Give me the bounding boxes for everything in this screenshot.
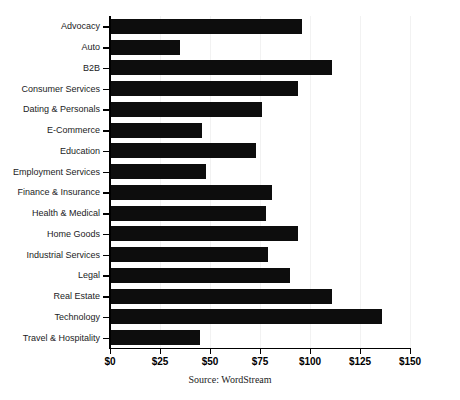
y-axis-label: Auto bbox=[0, 42, 100, 52]
y-axis-label: Technology bbox=[0, 312, 100, 322]
x-axis-tick bbox=[260, 348, 261, 354]
gridline bbox=[410, 16, 411, 348]
y-axis-tick bbox=[103, 26, 110, 27]
x-axis-tick bbox=[110, 348, 111, 354]
x-axis-label: $100 bbox=[299, 356, 321, 367]
x-axis-tick bbox=[410, 348, 411, 354]
y-axis-label: Employment Services bbox=[0, 167, 100, 177]
y-axis-tick bbox=[103, 47, 110, 48]
y-axis-tick bbox=[103, 172, 110, 173]
plot-area bbox=[110, 16, 410, 348]
y-axis-tick bbox=[103, 255, 110, 256]
y-axis-label: Education bbox=[0, 146, 100, 156]
y-axis-tick bbox=[103, 213, 110, 214]
bar bbox=[110, 81, 298, 96]
bar bbox=[110, 185, 272, 200]
y-axis-tick bbox=[103, 89, 110, 90]
bar bbox=[110, 102, 262, 117]
x-axis-label: $125 bbox=[349, 356, 371, 367]
chart-title bbox=[0, 0, 460, 3]
bar bbox=[110, 40, 180, 55]
bar bbox=[110, 268, 290, 283]
y-axis-label: Health & Medical bbox=[0, 208, 100, 218]
bar bbox=[110, 247, 268, 262]
y-axis-label: Dating & Personals bbox=[0, 104, 100, 114]
y-axis-tick bbox=[103, 317, 110, 318]
x-axis-label: $0 bbox=[104, 356, 115, 367]
bar bbox=[110, 226, 298, 241]
bar-chart-figure: Source: WordStream AdvocacyAutoB2BConsum… bbox=[0, 0, 460, 400]
source-note: Source: WordStream bbox=[0, 374, 460, 385]
y-axis-tick bbox=[103, 234, 110, 235]
y-axis-tick bbox=[103, 68, 110, 69]
x-axis-tick bbox=[360, 348, 361, 354]
x-axis-label: $150 bbox=[399, 356, 421, 367]
bar bbox=[110, 330, 200, 345]
y-axis-label: Travel & Hospitality bbox=[0, 333, 100, 343]
bar bbox=[110, 60, 332, 75]
y-axis-label: Legal bbox=[0, 270, 100, 280]
bar bbox=[110, 123, 202, 138]
y-axis-label: Finance & Insurance bbox=[0, 187, 100, 197]
y-axis-label: E-Commerce bbox=[0, 125, 100, 135]
bar bbox=[110, 289, 332, 304]
gridline bbox=[360, 16, 361, 348]
y-axis-label: Advocacy bbox=[0, 21, 100, 31]
y-axis-label: Industrial Services bbox=[0, 250, 100, 260]
y-axis-label: Consumer Services bbox=[0, 84, 100, 94]
y-axis-tick bbox=[103, 338, 110, 339]
bar bbox=[110, 143, 256, 158]
y-axis-line bbox=[109, 16, 111, 348]
x-axis-label: $75 bbox=[252, 356, 269, 367]
bar bbox=[110, 309, 382, 324]
y-axis-tick bbox=[103, 130, 110, 131]
x-axis-label: $50 bbox=[202, 356, 219, 367]
y-axis-label: B2B bbox=[0, 63, 100, 73]
x-axis-tick bbox=[310, 348, 311, 354]
bar bbox=[110, 164, 206, 179]
bar bbox=[110, 19, 302, 34]
y-axis-tick bbox=[103, 192, 110, 193]
bar bbox=[110, 206, 266, 221]
y-axis-label: Real Estate bbox=[0, 291, 100, 301]
y-axis-tick bbox=[103, 151, 110, 152]
x-axis-tick bbox=[160, 348, 161, 354]
y-axis-tick bbox=[103, 296, 110, 297]
y-axis-tick bbox=[103, 275, 110, 276]
y-axis-label: Home Goods bbox=[0, 229, 100, 239]
y-axis-tick bbox=[103, 109, 110, 110]
x-axis-tick bbox=[210, 348, 211, 354]
x-axis-label: $25 bbox=[152, 356, 169, 367]
